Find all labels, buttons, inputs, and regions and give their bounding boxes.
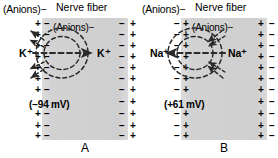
charge-sign-outer-right-b: − [269, 19, 275, 29]
charge-sign-outer-right-b: − [269, 74, 275, 84]
charge-sign-inner-right-b: + [258, 85, 264, 95]
charge-sign-outer-left-a: + [35, 41, 41, 51]
charge-sign-inner-left-b: + [183, 109, 189, 119]
charge-sign-inner-right-b: + [258, 109, 264, 119]
nerve-fiber-body-b [181, 18, 267, 140]
charge-sign-outer-right-a: + [130, 85, 136, 95]
charge-sign-inner-left-a: − [44, 74, 50, 84]
charge-sign-outer-right-b: − [269, 85, 275, 95]
charge-sign-inner-left-b: + [183, 41, 189, 51]
charge-sign-outer-right-b: − [269, 109, 275, 119]
charge-sign-inner-left-a: − [44, 19, 50, 29]
charge-sign-inner-right-b: + [258, 131, 264, 141]
charge-sign-inner-left-a: − [44, 52, 50, 62]
charge-sign-outer-left-b: − [174, 41, 180, 51]
ion-label-right-a: K⁺ [97, 48, 111, 59]
charge-sign-inner-left-b: + [183, 63, 189, 73]
charge-sign-outer-left-a: + [35, 30, 41, 40]
panel-letter-a: A [81, 142, 89, 154]
charge-sign-inner-right-a: − [119, 85, 125, 95]
charge-sign-outer-left-b: − [174, 74, 180, 84]
charge-sign-outer-right-a: + [130, 74, 136, 84]
charge-sign-outer-right-a: + [130, 19, 136, 29]
charge-sign-outer-right-a: + [130, 41, 136, 51]
charge-sign-outer-right-b: − [269, 63, 275, 73]
charge-sign-inner-right-b: + [258, 19, 264, 29]
charge-sign-outer-left-b: − [174, 131, 180, 141]
charge-sign-inner-left-b: + [183, 74, 189, 84]
charge-sign-inner-right-b: + [258, 30, 264, 40]
charge-sign-inner-right-a: − [119, 131, 125, 141]
charge-sign-outer-left-a: + [35, 109, 41, 119]
charge-sign-inner-right-a: − [119, 109, 125, 119]
charge-sign-inner-right-b: + [258, 41, 264, 51]
charge-sign-inner-left-b: + [183, 19, 189, 29]
charge-sign-inner-right-b: + [258, 52, 264, 62]
charge-sign-inner-left-a: − [44, 41, 50, 51]
charge-sign-inner-left-a: − [44, 85, 50, 95]
charge-sign-inner-left-a: − [44, 109, 50, 119]
charge-sign-outer-left-b: − [174, 63, 180, 73]
charge-sign-outer-right-b: − [269, 131, 275, 141]
charge-sign-inner-left-b: + [183, 30, 189, 40]
charge-sign-outer-right-a: + [130, 97, 136, 107]
charge-sign-inner-right-a: − [119, 52, 125, 62]
charge-sign-inner-right-a: − [119, 63, 125, 73]
charge-sign-inner-right-a: − [119, 97, 125, 107]
nerve-fiber-diagram: (Anions)− Nerve fiber (Anions)− (−94 mV)… [0, 0, 278, 158]
charge-sign-inner-right-b: + [258, 63, 264, 73]
charge-sign-inner-left-b: + [183, 85, 189, 95]
charge-sign-inner-right-a: − [119, 74, 125, 84]
panel-letter-b: B [220, 142, 228, 154]
charge-sign-outer-left-b: − [174, 30, 180, 40]
charge-sign-outer-right-b: − [269, 30, 275, 40]
charge-sign-outer-left-a: + [35, 131, 41, 141]
charge-sign-outer-left-a: + [35, 74, 41, 84]
charge-sign-outer-right-b: − [269, 52, 275, 62]
charge-sign-outer-left-a: + [35, 52, 41, 62]
ion-label-left-a: K⁺ [19, 48, 33, 59]
nerve-fiber-title-a: Nerve fiber [56, 2, 107, 13]
charge-sign-outer-left-b: − [174, 109, 180, 119]
ion-label-left-b: Na⁺ [150, 48, 169, 59]
nerve-fiber-body-a [42, 18, 128, 140]
charge-sign-outer-left-a: + [35, 85, 41, 95]
charge-sign-outer-right-a: + [130, 30, 136, 40]
charge-sign-inner-right-a: − [119, 30, 125, 40]
panel-a: (Anions)− Nerve fiber (Anions)− (−94 mV)… [0, 0, 139, 158]
charge-sign-inner-left-b: + [183, 52, 189, 62]
nerve-fiber-title-b: Nerve fiber [195, 2, 246, 13]
charge-sign-inner-right-b: + [258, 97, 264, 107]
inside-anions-label-b: (Anions)− [192, 23, 233, 33]
panel-b: (Anions)− Nerve fiber (Anions)− (+61 mV)… [139, 0, 278, 158]
charge-sign-inner-right-a: − [119, 41, 125, 51]
ion-label-right-b: Na⁺ [228, 48, 247, 59]
charge-sign-inner-left-b: + [183, 131, 189, 141]
charge-sign-outer-right-b: − [269, 97, 275, 107]
outside-anions-label-b: (Anions)− [142, 4, 185, 15]
charge-sign-outer-left-a: + [35, 19, 41, 29]
charge-sign-inner-right-a: − [119, 19, 125, 29]
charge-sign-outer-left-b: − [174, 19, 180, 29]
charge-sign-outer-left-b: − [174, 52, 180, 62]
charge-sign-inner-left-a: − [44, 30, 50, 40]
charge-sign-outer-left-b: − [174, 85, 180, 95]
charge-sign-outer-right-a: + [130, 52, 136, 62]
charge-sign-inner-left-a: − [44, 63, 50, 73]
charge-sign-inner-right-b: + [258, 74, 264, 84]
charge-sign-outer-right-a: + [130, 109, 136, 119]
charge-sign-outer-left-a: + [35, 63, 41, 73]
inside-anions-label-a: (Anions)− [53, 23, 94, 33]
charge-sign-outer-right-b: − [269, 41, 275, 51]
charge-sign-inner-left-a: − [44, 131, 50, 141]
charge-sign-outer-right-a: + [130, 63, 136, 73]
charge-sign-outer-right-a: + [130, 131, 136, 141]
outside-anions-label-a: (Anions)− [3, 4, 46, 15]
